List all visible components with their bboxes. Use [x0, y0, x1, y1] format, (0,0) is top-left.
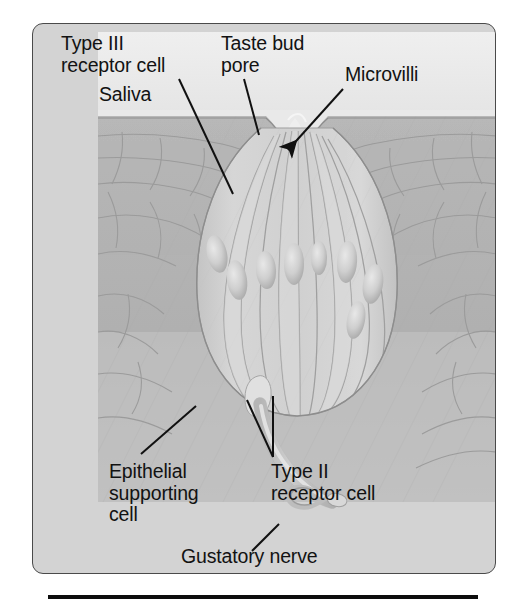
label-saliva: Saliva — [99, 84, 151, 106]
label-type-iii-receptor-cell: Type III receptor cell — [61, 33, 165, 76]
label-epithelial-supporting-cell: Epithelial supporting cell — [109, 461, 199, 526]
figure-frame: Type III receptor cell Taste bud pore Mi… — [32, 23, 496, 574]
label-type-ii-receptor-cell: Type II receptor cell — [271, 461, 375, 504]
bottom-divider-rule — [48, 595, 478, 599]
label-microvilli: Microvilli — [345, 64, 418, 86]
figure-root: Type III receptor cell Taste bud pore Mi… — [0, 0, 521, 607]
taste-bud-drawing — [98, 32, 496, 512]
label-taste-bud-pore: Taste bud pore — [221, 33, 304, 76]
taste-bud-illustration — [98, 32, 496, 512]
label-gustatory-nerve: Gustatory nerve — [181, 546, 317, 568]
